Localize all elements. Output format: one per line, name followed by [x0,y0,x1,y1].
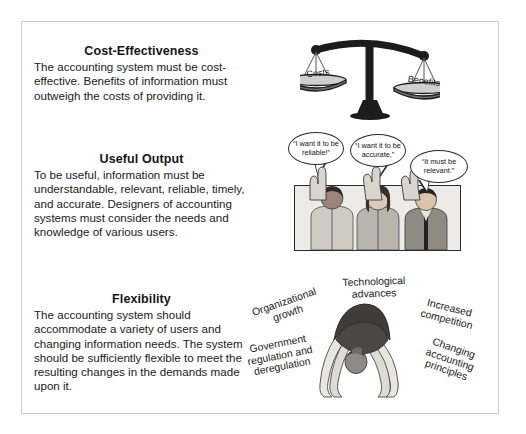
people-illustration: “I want it to be reliable!” “I want it t… [288,132,473,254]
section-body: The accounting system should accommodate… [34,308,249,394]
section-useful-output: Useful Output To be useful, information … [34,152,249,239]
gymnast-backbend-icon [306,300,418,404]
section-heading: Cost-Effectiveness [34,44,249,58]
speech-bubble-reliable: “I want it to be reliable!” [288,132,344,165]
section-body: The accounting system must be cost-effec… [34,60,249,103]
balance-scale-illustration: Costs Benefits [300,26,440,122]
section-flexibility: Flexibility The accounting system should… [34,292,249,394]
section-body: To be useful, information must be unders… [34,168,249,239]
section-cost-effectiveness: Cost-Effectiveness The accounting system… [34,44,249,103]
speech-bubble-relevant: “It must be relevant.” [410,150,468,183]
page-root: Cost-Effectiveness The accounting system… [0,0,526,434]
section-heading: Useful Output [34,152,249,166]
flexibility-illustration: Organizational growth Technological adva… [232,268,500,408]
section-heading: Flexibility [34,292,249,306]
speech-bubble-accurate: “I want it to be accurate.” [350,134,406,167]
